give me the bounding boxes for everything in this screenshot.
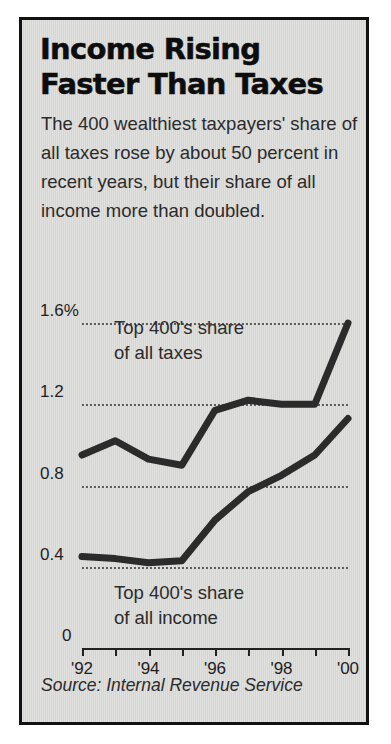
plot-area: 1.6%1.20.80.40 '92'94'96'98'00 Top 400's… [22, 285, 366, 680]
series-label-income: Top 400's share of all income [114, 580, 244, 630]
series-label-taxes: Top 400's share of all taxes [114, 315, 244, 365]
chart-panel: Income Rising Faster Than Taxes The 400 … [19, 17, 369, 725]
source-note: Source: Internal Revenue Service [41, 675, 303, 696]
page-title: Income Rising Faster Than Taxes [40, 32, 340, 102]
income-line [82, 419, 348, 563]
chart-subtitle: The 400 wealthiest taxpayers' share of a… [41, 109, 359, 225]
